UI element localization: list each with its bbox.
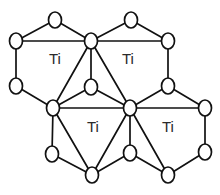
ti-site-label: Ti [49, 50, 61, 67]
lattice-canvas: TiTiTiTi [0, 0, 220, 195]
atom-mid-center-bridge [85, 79, 98, 95]
atom-upper-center-hub [85, 33, 98, 49]
ti-site-label: Ti [87, 118, 99, 135]
ti-site-label: Ti [162, 118, 174, 135]
atom-top-left-apex [49, 12, 62, 28]
atom-upper-right-corner [162, 33, 175, 49]
atom-upper-left-corner [10, 33, 23, 49]
atom-top-right-apex [125, 12, 138, 28]
atom-right-corner-upper [199, 100, 212, 116]
atom-mid-right-edge [162, 78, 175, 94]
atom-center-right-hub [124, 100, 137, 116]
lattice-figure: TiTiTiTi [0, 0, 220, 195]
atom-lower-center-edge [124, 145, 137, 161]
ti-site-label: Ti [122, 50, 134, 67]
atom-bottom-left-apex [86, 167, 99, 183]
atom-lower-left-edge [46, 146, 59, 162]
atom-bottom-right-apex [162, 167, 175, 183]
atom-lower-right-edge [199, 144, 212, 160]
bond-layer [16, 20, 205, 175]
atom-mid-left-edge [10, 78, 23, 94]
atom-center-left-hub [47, 100, 60, 116]
